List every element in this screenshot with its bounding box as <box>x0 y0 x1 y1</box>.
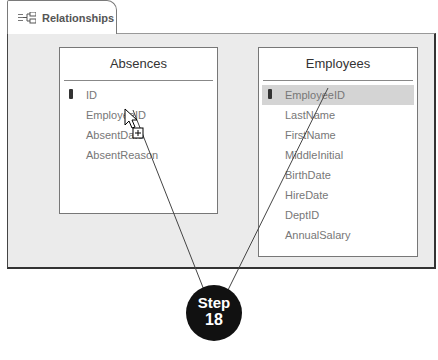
step-number: 18 <box>186 311 242 329</box>
field-middleinitial[interactable]: MiddleInitial <box>259 145 417 165</box>
field-label: AnnualSalary <box>285 229 350 241</box>
drag-cursor-icon <box>124 108 148 146</box>
tab-label: Relationships <box>42 12 114 24</box>
field-label: AbsentReason <box>86 149 158 161</box>
field-lastname[interactable]: LastName <box>259 105 417 125</box>
field-birthdate[interactable]: BirthDate <box>259 165 417 185</box>
field-label: LastName <box>285 109 335 121</box>
step-word: Step <box>186 294 242 311</box>
field-deptid[interactable]: DeptID <box>259 205 417 225</box>
table-title: Employees <box>259 48 417 78</box>
primary-key-icon <box>69 89 73 99</box>
field-annualsalary[interactable]: AnnualSalary <box>259 225 417 245</box>
relationships-icon <box>18 12 36 24</box>
field-label: DeptID <box>285 209 319 221</box>
field-label: EmployeeID <box>285 89 345 101</box>
field-firstname[interactable]: FirstName <box>259 125 417 145</box>
divider <box>263 80 413 81</box>
divider <box>64 80 213 81</box>
field-id[interactable]: ID <box>60 85 217 105</box>
field-label: HireDate <box>285 189 328 201</box>
field-label: MiddleInitial <box>285 149 343 161</box>
field-label: ID <box>86 89 97 101</box>
field-absentreason[interactable]: AbsentReason <box>60 145 217 165</box>
field-employeeid-selected[interactable]: EmployeeID <box>262 85 414 105</box>
tab-relationships[interactable]: Relationships <box>7 0 117 34</box>
table-title: Absences <box>60 48 217 78</box>
primary-key-icon <box>268 89 272 99</box>
field-label: BirthDate <box>285 169 331 181</box>
field-label: FirstName <box>285 129 336 141</box>
step-callout-badge: Step 18 <box>186 285 242 341</box>
table-employees[interactable]: Employees EmployeeID LastName FirstName … <box>258 47 418 257</box>
field-hiredate[interactable]: HireDate <box>259 185 417 205</box>
